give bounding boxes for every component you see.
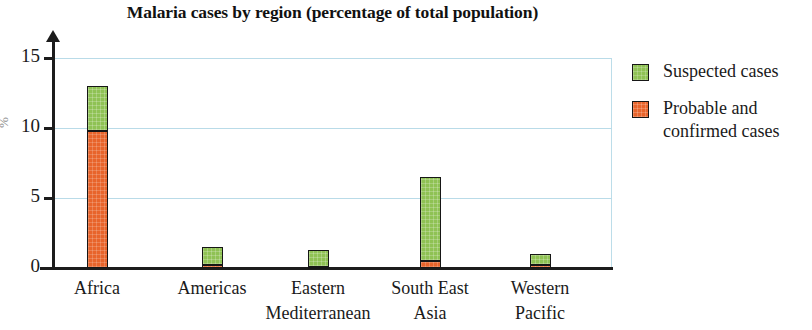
bar-africa[interactable]: [87, 86, 108, 268]
legend-swatch-suspected-icon: [632, 64, 649, 81]
bar-segment-probable: [308, 267, 329, 269]
bar-segment-suspected: [308, 250, 329, 267]
legend-item-suspected[interactable]: Suspected cases: [632, 60, 812, 83]
gridline-5: [54, 198, 612, 199]
y-tick-label-15: 15: [0, 45, 40, 67]
y-tick-label-0: 0: [0, 255, 40, 277]
bar-segment-suspected: [420, 177, 441, 261]
chart-figure: Malaria cases by region (percentage of t…: [0, 0, 812, 330]
legend-swatch-probable-icon: [632, 101, 649, 118]
chart-legend: Suspected casesProbable and confirmed ca…: [632, 60, 812, 157]
bar-segment-suspected: [87, 86, 108, 131]
y-tick-15: [44, 57, 54, 60]
plot-area: [54, 58, 612, 268]
y-tick-0: [44, 267, 54, 270]
y-axis-arrow-icon: [46, 30, 60, 42]
x-label-line-2: Pacific: [465, 301, 615, 326]
legend-label: Suspected cases: [663, 60, 812, 83]
y-tick-10: [44, 127, 54, 130]
bar-segment-suspected: [530, 254, 551, 265]
x-label-line-1: Americas: [178, 278, 247, 298]
legend-label: Probable and confirmed cases: [663, 97, 812, 143]
chart-title: Malaria cases by region (percentage of t…: [60, 2, 605, 23]
bar-segment-probable: [87, 131, 108, 268]
bar-segment-probable: [202, 265, 223, 268]
y-tick-5: [44, 197, 54, 200]
gridline-10: [54, 128, 612, 129]
gridline-15: [54, 58, 612, 59]
bar-segment-probable: [420, 261, 441, 268]
x-label-line-1: Eastern: [291, 278, 345, 298]
bar-segment-suspected: [202, 247, 223, 265]
bar-americas[interactable]: [202, 247, 223, 268]
y-axis-line: [52, 38, 55, 270]
bar-eastern-mediterranean[interactable]: [308, 250, 329, 268]
plot-right-edge: [611, 58, 612, 269]
x-label-line-1: South East: [391, 278, 469, 298]
x-label-line-1: Africa: [74, 278, 120, 298]
bar-south-east-asia[interactable]: [420, 177, 441, 268]
y-tick-label-10: 10: [0, 115, 40, 137]
bar-western-pacific[interactable]: [530, 254, 551, 268]
x-label-line-1: Western: [511, 278, 570, 298]
bar-segment-probable: [530, 265, 551, 269]
x-label-western-pacific: WesternPacific: [465, 276, 615, 326]
y-tick-label-5: 5: [0, 185, 40, 207]
legend-item-probable[interactable]: Probable and confirmed cases: [632, 97, 812, 143]
